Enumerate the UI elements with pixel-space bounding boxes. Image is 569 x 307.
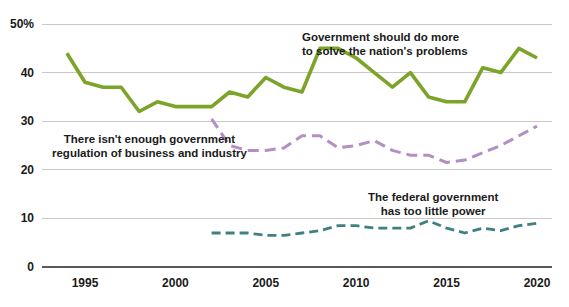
series-line-1 — [212, 119, 537, 163]
x-axis-tick-label: 2015 — [433, 276, 460, 290]
y-axis-tick-labels: 01020304050% — [10, 17, 34, 274]
x-axis-tick-label: 2010 — [343, 276, 370, 290]
x-axis-tick-label: 2005 — [252, 276, 279, 290]
series-label-line-2: to solve the nation's problems — [302, 45, 468, 57]
line-chart: 01020304050% 199520002005201020152020 Go… — [0, 0, 569, 307]
series-label-not-enough-regulation: There isn't enough government regulation… — [52, 132, 247, 161]
x-axis-tick-labels: 199520002005201020152020 — [72, 276, 551, 290]
series-label-government-should-do-more: Government should do more to solve the n… — [302, 30, 468, 59]
series-label-line-1: The federal government — [368, 191, 498, 203]
series-label-line-1: Government should do more — [302, 31, 459, 43]
x-axis-tick-label: 1995 — [72, 276, 99, 290]
series-label-line-2: regulation of business and industry — [52, 147, 247, 159]
y-axis-tick-label: 30 — [21, 114, 35, 128]
series-label-federal-government-too-little-power: The federal government has too little po… — [368, 190, 498, 219]
series-label-line-1: There isn't enough government — [64, 133, 235, 145]
y-axis-tick-label: 50% — [10, 17, 34, 31]
x-axis-tick-label: 2020 — [524, 276, 551, 290]
series-label-line-2: has too little power — [381, 205, 486, 217]
y-axis-tick-label: 0 — [27, 260, 34, 274]
x-axis-tick-label: 2000 — [162, 276, 189, 290]
y-axis-tick-label: 40 — [21, 66, 35, 80]
y-axis-tick-label: 10 — [21, 211, 35, 225]
y-axis-tick-label: 20 — [21, 163, 35, 177]
series-line-2 — [212, 221, 537, 236]
